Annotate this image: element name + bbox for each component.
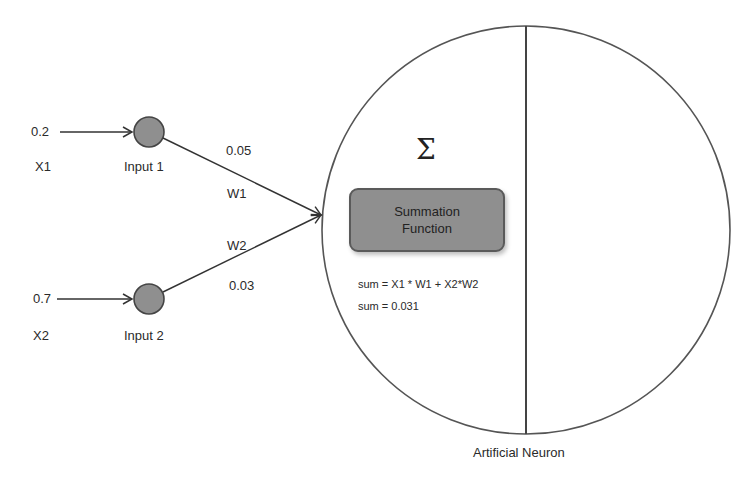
summation-function-box: Summation Function: [349, 188, 505, 252]
weight-2-value: 0.03: [229, 278, 254, 293]
sum-formula: sum = X1 * W1 + X2*W2: [358, 278, 478, 290]
summation-box-line2: Function: [402, 220, 452, 237]
input-1-var: X1: [35, 159, 51, 174]
summation-box-line1: Summation: [394, 203, 460, 220]
weight-1-value: 0.05: [226, 143, 251, 158]
input-2-var: X2: [33, 328, 49, 343]
input-2-value: 0.7: [33, 291, 51, 306]
sigma-symbol: Σ: [416, 133, 436, 166]
weight-2-name: W2: [227, 238, 247, 253]
input-1-value: 0.2: [31, 124, 49, 139]
input-2-label: Input 2: [124, 328, 164, 343]
input-2-node: [134, 284, 164, 314]
input-1-label: Input 1: [124, 159, 164, 174]
input-1-node: [134, 117, 164, 147]
neuron-caption: Artificial Neuron: [473, 445, 565, 460]
weight-1-name: W1: [227, 186, 247, 201]
sum-result: sum = 0.031: [358, 300, 419, 312]
